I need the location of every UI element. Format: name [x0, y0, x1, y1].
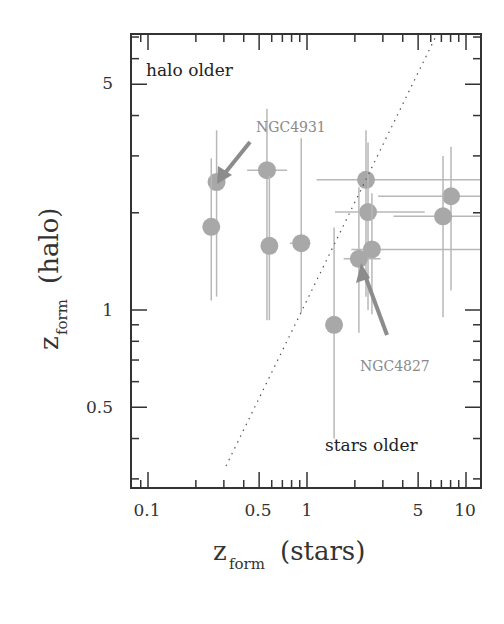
axes-frame [131, 34, 481, 488]
x-axis-title-sub: form [229, 555, 265, 573]
marker [258, 161, 276, 179]
x-axis-title: z form (stars) [213, 536, 365, 573]
marker [292, 234, 310, 252]
marker [325, 316, 343, 334]
ngc4931-arrow [217, 142, 250, 184]
marker [434, 207, 452, 225]
y-axis-title-sub: form [53, 299, 71, 335]
x-tick-label: 1 [302, 500, 313, 520]
x-tick-label: 0.5 [244, 500, 271, 520]
y-axis-title-z: z [34, 336, 64, 350]
y-tick-label: 0.5 [86, 397, 113, 417]
x-tick-label: 0.1 [133, 500, 160, 520]
x-axis-title-z: z [213, 536, 227, 566]
stars-older-label: stars older [325, 435, 419, 455]
marker [350, 250, 368, 268]
ngc4931-label: NGC4931 [256, 119, 326, 135]
data-point [290, 138, 311, 313]
y-tick-label: 1 [102, 300, 113, 320]
x-tick-label: 5 [413, 500, 424, 520]
marker [202, 218, 220, 236]
data-point [325, 228, 343, 439]
plot-area [202, 109, 481, 439]
data-point [317, 130, 481, 296]
axis-ticks [131, 34, 481, 488]
halo-older-label: halo older [146, 60, 234, 80]
x-tick-label: 10 [454, 500, 476, 520]
y-tick-label: 5 [102, 73, 113, 93]
data-point [335, 143, 425, 310]
marker [260, 237, 278, 255]
data-point [208, 130, 226, 296]
data-point [260, 176, 278, 320]
ngc4827-label: NGC4827 [360, 358, 430, 374]
data-point [247, 109, 287, 320]
marker [359, 203, 377, 221]
data-point [378, 147, 481, 291]
marker [442, 187, 460, 205]
y-axis-title: z form (halo) [34, 207, 71, 350]
scatter-chart: 0.1 0.5 1 5 10 5 1 0.5 halo older stars … [0, 0, 504, 624]
y-axis-title-rest: (halo) [34, 207, 64, 284]
x-axis-title-rest: (stars) [280, 536, 365, 566]
